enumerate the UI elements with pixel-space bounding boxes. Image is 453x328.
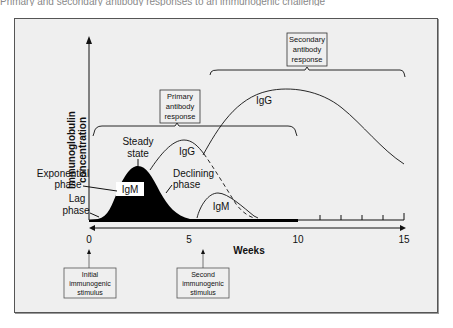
secondary-response-brace <box>210 67 405 77</box>
initial-stimulus-arrow <box>87 249 91 268</box>
x-tick-15: 15 <box>398 234 410 245</box>
declining-phase-line1: Declining <box>173 168 214 179</box>
exponential-phase-pointer <box>83 186 117 191</box>
primary-response-brace <box>93 123 297 136</box>
primary-response-line1: Primary <box>167 92 193 101</box>
initial-stimulus-line3: stimulus <box>77 289 103 296</box>
secondary-response-line1: Secondary <box>289 35 325 44</box>
primary-response-line3: response <box>165 112 196 121</box>
secondary-igg-label: IgG <box>256 95 272 106</box>
x-tick-5: 5 <box>186 234 192 245</box>
exponential-phase-line2: phase <box>54 179 82 190</box>
declining-phase-line2: phase <box>173 179 201 190</box>
primary-igg-curve <box>150 140 204 170</box>
primary-igm-text: IgM <box>122 184 139 195</box>
steady-state-line1: Steady <box>122 136 153 147</box>
primary-igg-label: IgG <box>179 146 195 157</box>
steady-state-line2: state <box>127 148 149 159</box>
x-axis-label: Weeks <box>233 245 265 256</box>
antibody-response-diagram: Immunoglobulin concentration 0 5 10 15 W… <box>0 0 453 328</box>
exponential-phase-line1: Exponential <box>37 168 89 179</box>
secondary-response-line2: antibody <box>293 45 322 54</box>
secondary-response-line3: response <box>292 55 323 64</box>
x-tick-10: 10 <box>292 234 304 245</box>
primary-response-line2: antibody <box>166 102 195 111</box>
second-stimulus-line3: stimulus <box>190 289 216 296</box>
initial-stimulus-line1: Initial <box>82 271 99 278</box>
secondary-igg-curve <box>203 89 404 164</box>
second-stimulus-line2: immunogenic <box>182 280 224 288</box>
second-stimulus-line1: Second <box>191 271 215 278</box>
lag-phase-line2: phase <box>62 205 90 216</box>
declining-phase-pointer <box>166 185 172 193</box>
initial-stimulus-line2: immunogenic <box>69 280 111 288</box>
x-tick-0: 0 <box>86 234 92 245</box>
second-stimulus-arrow <box>201 249 205 268</box>
lag-phase-line1: Lag <box>69 193 86 204</box>
x-axis <box>89 225 406 231</box>
lag-phase-pointer <box>90 213 99 217</box>
secondary-igm-label: IgM <box>213 201 230 212</box>
